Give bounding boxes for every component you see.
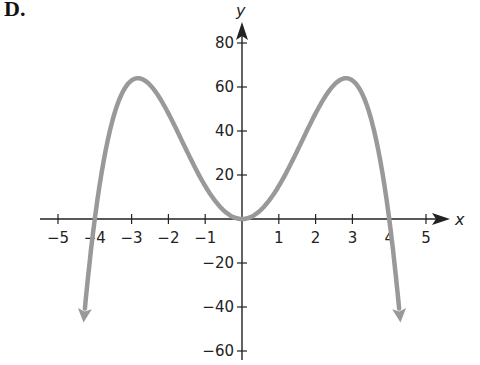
x-tick-label: 3 (348, 229, 358, 247)
y-tick-label: −40 (202, 298, 234, 316)
x-tick-label: −2 (157, 229, 179, 247)
x-tick-label: −3 (121, 229, 143, 247)
axes: xy (40, 1, 465, 360)
y-tick-label: 80 (215, 34, 234, 52)
x-tick-label: −5 (47, 229, 69, 247)
y-tick-label: 40 (215, 122, 234, 140)
ticks: −5−4−3−2−112345−60−40−2020406080 (47, 34, 431, 360)
y-tick-label: 20 (215, 166, 234, 184)
x-tick-label: 2 (311, 229, 321, 247)
x-tick-label: 5 (421, 229, 431, 247)
y-tick-label: −60 (202, 342, 234, 360)
x-tick-label: 1 (274, 229, 284, 247)
y-tick-label: 60 (215, 78, 234, 96)
y-axis-label: y (235, 1, 246, 20)
x-axis-label: x (454, 210, 465, 229)
y-tick-label: −20 (202, 254, 234, 272)
chart: xy −5−4−3−2−112345−60−40−2020406080 (0, 0, 480, 365)
x-tick-label: −1 (194, 229, 216, 247)
